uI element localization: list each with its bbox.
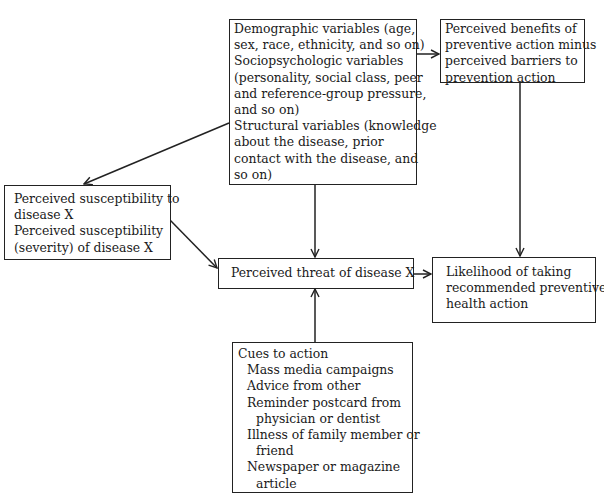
arrow-susceptibility-to-threat [170,220,217,268]
arrow-modifying-to-susceptibility [84,123,229,184]
threat-line: Perceived threat of disease X [231,265,413,281]
modifying-line: and reference-group pressure, [234,86,412,102]
cue-item-continued: physician or dentist [238,411,410,427]
modifying-factors-box: Demographic variables (age, sex, race, e… [229,19,417,185]
modifying-line: Structural variables (knowledge [234,118,412,134]
likelihood-line: recommended preventive [446,280,591,296]
modifying-line: sex, race, ethnicity, and so on) [234,37,412,53]
perceived-threat-box: Perceived threat of disease X [218,258,414,289]
cues-to-action-box: Cues to action Mass media campaigns Advi… [232,342,413,493]
cue-item: Advice from other [238,378,410,394]
benefits-line: prevention action [445,70,580,86]
modifying-line: Sociopsychologic variables [234,53,412,69]
modifying-line: so on) [234,167,412,183]
modifying-line: and so on) [234,102,412,118]
benefits-line: preventive action minus [445,37,580,53]
modifying-line: Demographic variables (age, [234,21,412,37]
susceptibility-line: disease X [14,207,162,223]
benefits-line: perceived barriers to [445,53,580,69]
modifying-line: (personality, social class, peer [234,70,412,86]
susceptibility-box: Perceived susceptibility to disease X Pe… [4,185,171,260]
cue-item: Mass media campaigns [238,362,410,378]
susceptibility-line: (severity) of disease X [14,240,162,256]
cue-item: Newspaper or magazine [238,459,410,475]
cue-item-continued: article [238,476,410,492]
susceptibility-line: Perceived susceptibility [14,223,162,239]
cues-heading: Cues to action [238,346,410,362]
benefits-line: Perceived benefits of [445,21,580,37]
benefits-barriers-box: Perceived benefits of preventive action … [440,19,585,83]
cue-item-continued: friend [238,443,410,459]
modifying-line: contact with the disease, and [234,151,412,167]
likelihood-line: Likelihood of taking [446,264,591,280]
cue-item: Reminder postcard from [238,395,410,411]
modifying-line: about the disease, prior [234,134,412,150]
cue-item: Illness of family member or [238,427,410,443]
likelihood-box: Likelihood of taking recommended prevent… [432,257,596,323]
likelihood-line: health action [446,296,591,312]
susceptibility-line: Perceived susceptibility to [14,191,162,207]
